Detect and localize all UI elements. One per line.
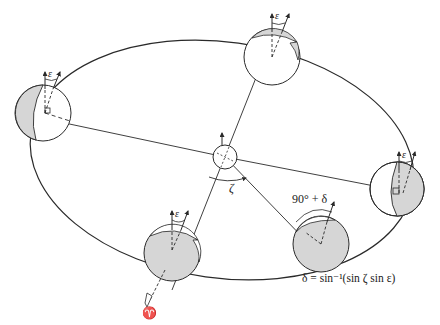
- vernal-equinox-label: ♈: [142, 307, 157, 319]
- earth-bottom-right: [293, 202, 349, 272]
- epsilon-label-right: ε: [402, 150, 406, 160]
- epsilon-label-left: ε: [48, 69, 52, 79]
- declination-formula: δ = sin⁻¹(sin ζ sin ε): [302, 273, 395, 285]
- epsilon-label-bottom-left: ε: [175, 209, 179, 219]
- zeta-label: ζ: [229, 182, 234, 194]
- epsilon-label-top: ε: [275, 11, 279, 21]
- angle-90-plus-delta-label: 90° + δ: [292, 193, 327, 205]
- earth-bottom-left: [144, 211, 201, 307]
- zeta-angle-arc: [209, 177, 246, 181]
- earth-right: [370, 152, 424, 216]
- earth-top: [244, 14, 300, 85]
- sun: [213, 133, 237, 169]
- earth-left: [15, 72, 71, 141]
